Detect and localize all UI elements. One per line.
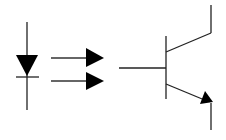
emitter-arrow-icon	[200, 91, 213, 104]
light-arrows	[51, 48, 104, 90]
arrow-upper-head-icon	[86, 48, 104, 67]
arrow-lower-head-icon	[86, 72, 104, 90]
diode-symbol	[16, 22, 39, 110]
collector-diagonal	[166, 33, 211, 52]
optocoupler-diagram	[0, 0, 226, 140]
phototransistor-symbol	[119, 5, 213, 130]
diode-triangle-icon	[16, 55, 38, 76]
emitter-diagonal	[166, 84, 207, 101]
